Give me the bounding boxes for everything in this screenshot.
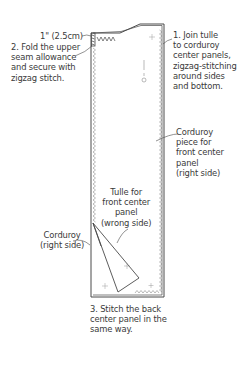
top-zigzag-stitch: [97, 37, 115, 41]
right-zigzag-stitch: [160, 30, 163, 292]
tulle-front-label: Tulle for front center panel (wrong side…: [101, 187, 151, 228]
measurement-label: 1" (2.5cm): [40, 31, 83, 41]
corduroy-right-label: Corduroy (right side): [40, 230, 84, 250]
left-zigzag-stitch: [93, 48, 96, 222]
corduroy-front-label: Corduroy piece for front center panel (r…: [176, 127, 224, 178]
folded-tulle-corner: [93, 223, 139, 292]
step-3-label: 3. Stitch the back center panel in the s…: [90, 304, 167, 335]
bottom-zigzag-stitch: [135, 291, 159, 294]
step-2-label: 2. Fold the upper seam allowance and sec…: [11, 42, 80, 83]
grainline-marker: [142, 60, 146, 82]
corduroy-panel-outline: [91, 24, 164, 297]
folded-seam-allowance: [92, 33, 96, 46]
step-1-label: 1. Join tulle to corduroy center panels,…: [173, 30, 237, 91]
